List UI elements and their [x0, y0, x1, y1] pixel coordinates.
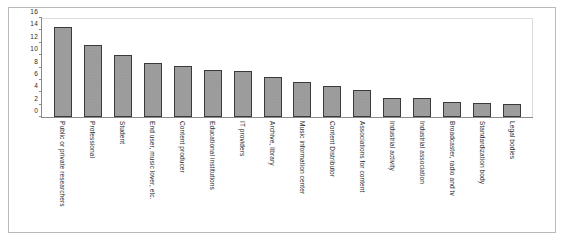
- x-label-slot: Music information center: [287, 121, 317, 229]
- bar: [234, 71, 252, 117]
- x-axis-label: Industrial activity: [389, 121, 396, 171]
- bar-slot: [48, 18, 78, 117]
- bar: [204, 70, 222, 117]
- x-axis-label: Archive, library: [269, 121, 276, 166]
- y-axis-tick-label: 12: [30, 32, 38, 39]
- x-axis-label: Legal bodies: [509, 121, 516, 159]
- bar-slot: [497, 18, 527, 117]
- x-axis-label: IT providers: [239, 121, 246, 156]
- bar-chart-figure: 0246810121416 Public or private research…: [0, 0, 565, 241]
- bar: [383, 98, 401, 117]
- bar-slot: [78, 18, 108, 117]
- x-axis-label: Associations for content: [359, 121, 366, 192]
- bar-slot: [377, 18, 407, 117]
- x-axis-label: Standardization body: [479, 121, 486, 184]
- x-axis-label: Educational institutions: [209, 121, 216, 190]
- x-axis-label: Professional: [89, 121, 96, 158]
- x-label-slot: Professional: [77, 121, 107, 229]
- bar-slot: [258, 18, 288, 117]
- x-label-slot: Content Distributor: [317, 121, 347, 229]
- bar: [84, 45, 102, 117]
- y-axis-tick-label: 4: [34, 82, 38, 89]
- x-label-slot: End user, music lover, etc.: [137, 121, 167, 229]
- x-axis-label: Public or private researchers: [59, 121, 66, 207]
- bar-slot: [108, 18, 138, 117]
- bar: [503, 104, 521, 117]
- x-label-slot: Industrial activity: [377, 121, 407, 229]
- y-axis-tick-label: 6: [34, 69, 38, 76]
- x-label-slot: Associations for content: [347, 121, 377, 229]
- x-label-slot: Student: [107, 121, 137, 229]
- bar: [413, 98, 431, 117]
- x-label-slot: Content producer: [167, 121, 197, 229]
- bar-slot: [467, 18, 497, 117]
- bar: [264, 77, 282, 117]
- y-axis-tick-label: 10: [30, 45, 38, 52]
- x-axis-label: Content Distributor: [329, 121, 336, 177]
- bar-slot: [347, 18, 377, 117]
- x-label-slot: Educational institutions: [197, 121, 227, 229]
- bar-slot: [198, 18, 228, 117]
- x-axis-label: Industrial association: [419, 121, 426, 184]
- bar: [114, 55, 132, 117]
- x-label-slot: Industrial association: [407, 121, 437, 229]
- bar: [174, 66, 192, 117]
- bar-slot: [288, 18, 318, 117]
- x-axis-category-labels: Public or private researchersProfessiona…: [41, 121, 533, 229]
- y-axis-tick-label: 2: [34, 94, 38, 101]
- x-axis-label: Music information center: [299, 121, 306, 194]
- plot-area: 0246810121416: [41, 18, 533, 118]
- y-axis-tick-label: 14: [30, 20, 38, 27]
- x-label-slot: IT providers: [227, 121, 257, 229]
- x-label-slot: Legal bodies: [497, 121, 527, 229]
- bar-slot: [437, 18, 467, 117]
- x-axis-label: Student: [119, 121, 126, 144]
- bar: [443, 102, 461, 117]
- bar: [473, 103, 491, 117]
- bar-series: [42, 18, 533, 117]
- bar: [323, 86, 341, 117]
- bar: [54, 27, 72, 117]
- x-axis-label: Content producer: [179, 121, 186, 173]
- y-axis-tick-label: 0: [34, 107, 38, 114]
- x-label-slot: Archive, library: [257, 121, 287, 229]
- x-axis-label: Broadcaster, radio and tv: [449, 121, 456, 196]
- bar-slot: [168, 18, 198, 117]
- x-label-slot: Standardization body: [467, 121, 497, 229]
- bar: [353, 90, 371, 117]
- x-label-slot: Public or private researchers: [47, 121, 77, 229]
- x-axis-label: End user, music lover, etc.: [149, 121, 156, 200]
- y-axis-tick-label: 8: [34, 57, 38, 64]
- bar-slot: [228, 18, 258, 117]
- y-axis-tick-label: 16: [30, 8, 38, 15]
- bar-slot: [317, 18, 347, 117]
- x-label-slot: Broadcaster, radio and tv: [437, 121, 467, 229]
- bar-slot: [407, 18, 437, 117]
- bar-slot: [138, 18, 168, 117]
- bar: [144, 63, 162, 117]
- bar: [293, 82, 311, 117]
